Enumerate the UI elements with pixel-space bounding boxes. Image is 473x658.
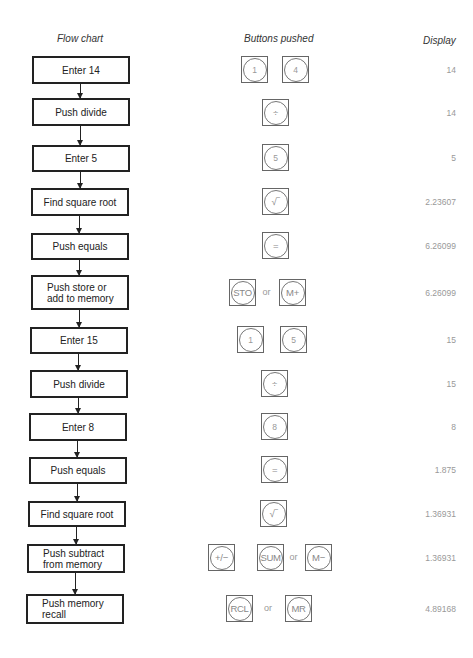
calculator-key-8: 8 [261,413,288,440]
flow-step-box: Push memory recall [26,594,124,624]
calculator-key-5: 5 [280,326,307,353]
key-label: ÷ [263,372,287,396]
flow-arrow [75,573,76,594]
display-value: 1.36931 [425,553,456,563]
display-value: 1.875 [435,465,456,475]
display-value: 8 [451,422,456,432]
header-flow-chart: Flow chart [57,33,103,44]
flow-arrow [80,172,81,188]
display-value: 4.89168 [425,604,456,614]
key-label: 1 [239,328,263,352]
display-value: 14 [447,65,456,75]
calculator-key-m: M+ [279,279,306,306]
flow-step-box: Enter 14 [32,56,130,84]
display-value: 2.23607 [425,197,456,207]
flow-arrow [78,354,79,370]
key-label: STO [231,281,255,305]
flow-step-box: Enter 15 [30,327,128,354]
key-label: 4 [284,58,308,82]
flow-arrow [76,527,77,544]
calculator-key-: √‾ [260,500,287,527]
flow-step-box: Push equals [29,457,127,484]
flow-arrow [80,84,81,98]
flow-arrow [79,310,80,327]
key-label: = [263,458,287,482]
flow-step-box: Enter 8 [29,413,127,441]
calculator-key-: +/− [208,544,235,571]
flow-step-box: Enter 5 [32,145,130,172]
calculator-key-: = [262,232,289,259]
flow-step-box: Push equals [31,233,129,260]
flow-step-box: Push divide [30,370,128,398]
flow-step-box: Push subtract from memory [27,544,125,573]
flow-arrow [77,441,78,457]
display-value: 6.26099 [425,288,456,298]
key-label: = [264,234,288,258]
display-value: 5 [451,153,456,163]
key-label: √‾ [262,502,286,526]
or-label: or [263,287,271,297]
key-label: 5 [282,328,306,352]
flow-step-box: Find square root [31,188,129,216]
calculator-key-: ÷ [261,370,288,397]
calculator-key-rcl: RCL [226,595,253,622]
flow-arrow [80,126,81,145]
flow-step-box: Find square root [28,501,126,527]
display-value: 14 [447,108,456,118]
calculator-key-sum: SUM [257,544,284,571]
key-label: 8 [263,415,287,439]
key-label: +/− [210,546,234,570]
key-label: ÷ [264,101,288,125]
key-label: 5 [264,146,288,170]
key-label: RCL [228,597,252,621]
flow-step-box: Push divide [32,98,130,126]
calculator-key-1: 1 [241,56,268,83]
flow-arrow [79,216,80,233]
calculator-key-5: 5 [262,144,289,171]
calculator-key-: √‾ [262,188,289,215]
key-label: SUM [259,546,283,570]
key-label: √‾ [264,190,288,214]
display-value: 1.36931 [425,509,456,519]
calculator-key-mr: MR [285,595,312,622]
header-buttons-pushed: Buttons pushed [244,33,314,44]
key-label: M+ [281,281,305,305]
flow-arrow [77,484,78,501]
display-value: 15 [447,379,456,389]
flow-arrow [79,260,80,275]
key-label: 1 [243,58,267,82]
calculator-key-m: M− [305,544,332,571]
flow-step-box: Push store or add to memory [31,275,129,310]
calculator-key-sto: STO [229,279,256,306]
calculator-key-: ÷ [262,99,289,126]
header-display: Display [423,35,456,46]
calculator-key-1: 1 [237,326,264,353]
key-label: MR [287,597,311,621]
calculator-key-: = [261,456,288,483]
flow-arrow [78,398,79,413]
display-value: 6.26099 [425,241,456,251]
display-value: 15 [447,335,456,345]
or-label: or [290,552,298,562]
key-label: M− [307,546,331,570]
or-label: or [264,603,272,613]
calculator-key-4: 4 [282,56,309,83]
